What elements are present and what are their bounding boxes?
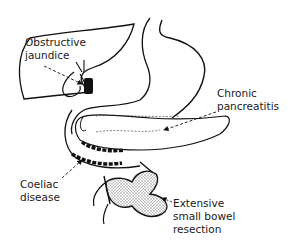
pancreas-head-loop	[80, 116, 86, 131]
bile-duct-obstruction	[84, 78, 93, 94]
arrow-obstructive-jaundice	[44, 66, 82, 84]
label-chronic-pancreatitis: Chronic pancreatitis	[217, 87, 279, 113]
gallbladder	[63, 72, 80, 96]
label-line: Coeliac	[20, 178, 60, 191]
label-line: resection	[173, 223, 235, 236]
label-line: Chronic	[217, 87, 279, 100]
label-line: disease	[20, 191, 60, 204]
arrow-coeliac-disease	[62, 160, 82, 178]
pancreatic-duct	[96, 115, 180, 132]
pancreas-outline	[76, 115, 230, 150]
coeliac-mucosa-lower	[72, 154, 122, 164]
resected-bowel	[106, 171, 167, 216]
label-small-bowel-resection: Extensive small bowel resection	[173, 197, 235, 236]
label-line: jaundice	[25, 49, 86, 62]
label-line: pancreatitis	[217, 100, 279, 113]
label-line: small bowel	[173, 210, 235, 223]
duodenum-outline	[65, 110, 140, 168]
label-line: Obstructive	[25, 36, 86, 49]
diagram-canvas: Obstructive jaundice Chronic pancreatiti…	[0, 0, 300, 246]
label-coeliac-disease: Coeliac disease	[20, 178, 60, 204]
arrow-chronic-pancreatitis	[164, 112, 216, 130]
label-line: Extensive	[173, 197, 235, 210]
label-obstructive-jaundice: Obstructive jaundice	[25, 36, 86, 62]
stomach-outline	[160, 20, 205, 118]
